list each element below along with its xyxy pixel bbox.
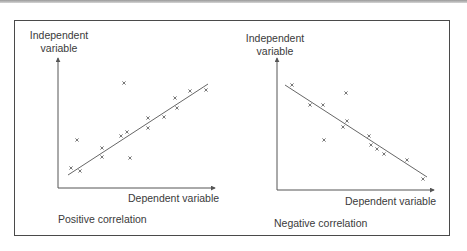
right-y-axis-label: Independent variable — [244, 32, 306, 58]
left-data-points — [69, 81, 207, 172]
left-y-axis-label-line2: variable — [28, 42, 90, 55]
right-y-axis-label-line1: Independent — [244, 32, 306, 45]
right-caption: Negative correlation — [274, 217, 367, 230]
left-y-axis-label: Independent variable — [28, 29, 90, 55]
right-chart — [277, 58, 434, 190]
right-trend-line — [285, 85, 427, 177]
left-y-axis-label-line1: Independent — [28, 29, 90, 42]
left-chart — [58, 58, 215, 188]
left-caption: Positive correlation — [58, 213, 147, 226]
left-x-axis-label: Dependent variable — [128, 192, 219, 205]
right-y-axis-label-line2: variable — [244, 45, 306, 58]
left-trend-line — [68, 84, 208, 175]
right-x-axis-label: Dependent variable — [345, 195, 436, 208]
